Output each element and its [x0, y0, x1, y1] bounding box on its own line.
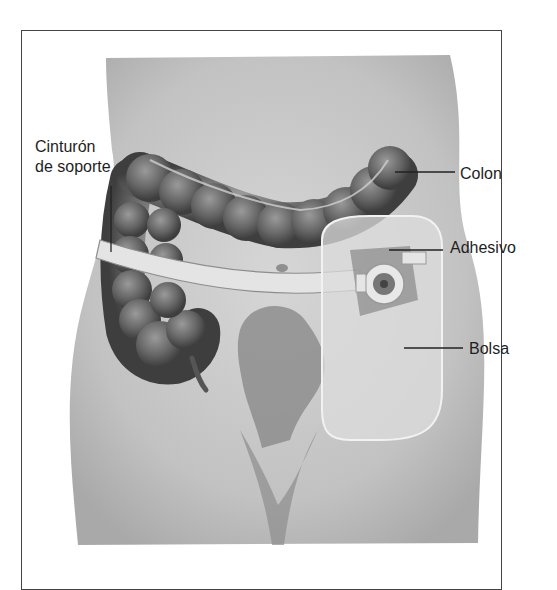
belt-label-line1: Cinturón — [35, 137, 111, 157]
colon-label: Colon — [460, 164, 502, 184]
belt-label-line2: de soporte — [35, 157, 111, 177]
pouch-label: Bolsa — [469, 339, 509, 359]
adhesive-label: Adhesivo — [450, 238, 516, 258]
belt-label: Cinturón de soporte — [35, 137, 111, 177]
